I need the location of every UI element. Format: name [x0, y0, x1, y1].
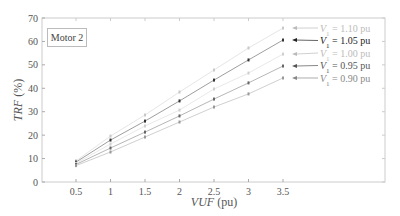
- y-tick-label: 40: [28, 83, 38, 94]
- series-line: [76, 28, 283, 161]
- data-point: [213, 69, 215, 72]
- data-point: [248, 46, 250, 49]
- data-point: [213, 98, 215, 101]
- y-tick-label: 60: [28, 36, 38, 47]
- data-point: [144, 120, 146, 123]
- data-point: [282, 65, 284, 68]
- series-group: [75, 27, 284, 168]
- data-point: [75, 164, 77, 167]
- x-tick-label: 2: [177, 186, 182, 197]
- legend-arrow: [295, 53, 318, 54]
- data-point: [248, 72, 250, 75]
- data-point: [179, 114, 181, 117]
- y-tick-label: 20: [28, 130, 38, 141]
- data-point: [144, 131, 146, 134]
- arrow-head-icon: [292, 64, 297, 68]
- data-point: [110, 147, 112, 150]
- data-point: [179, 121, 181, 124]
- x-axis: 0.511.522.533.5: [70, 18, 290, 197]
- data-point: [179, 99, 181, 102]
- y-tick-label: 30: [28, 106, 38, 117]
- y-tick-label: 0: [33, 177, 38, 188]
- x-tick-label: 3.5: [277, 186, 290, 197]
- data-point: [248, 92, 250, 95]
- data-point: [282, 53, 284, 56]
- data-point: [179, 91, 181, 94]
- data-point: [144, 125, 146, 128]
- x-tick-label: 3: [246, 186, 251, 197]
- data-point: [248, 81, 250, 84]
- y-tick-label: 10: [28, 153, 38, 164]
- data-point: [110, 135, 112, 138]
- data-point: [248, 58, 250, 61]
- arrow-head-icon: [292, 76, 297, 80]
- data-point: [213, 79, 215, 82]
- arrow-head-icon: [292, 26, 297, 30]
- motor-label: Motor 2: [47, 28, 87, 47]
- data-point: [282, 76, 284, 79]
- y-tick-label: 70: [28, 13, 38, 24]
- x-tick-label: 1: [108, 186, 113, 197]
- arrow-head-icon: [292, 52, 297, 56]
- legend: V1 = 1.10 puV1 = 1.05 puV1 = 1.00 puV1 =…: [292, 23, 370, 88]
- data-point: [110, 143, 112, 146]
- data-point: [213, 87, 215, 90]
- data-point: [110, 139, 112, 142]
- x-axis-title: VUF (pu): [191, 195, 237, 209]
- y-axis-title: TRF (%): [11, 79, 25, 121]
- data-point: [179, 109, 181, 112]
- data-point: [282, 39, 284, 42]
- x-tick-label: 1.5: [139, 186, 152, 197]
- y-tick-label: 50: [28, 59, 38, 70]
- x-tick-label: 0.5: [70, 186, 83, 197]
- arrow-head-icon: [292, 38, 297, 42]
- data-point: [144, 136, 146, 139]
- data-point: [110, 151, 112, 154]
- legend-arrow: [295, 66, 318, 67]
- data-point: [282, 27, 284, 30]
- data-point: [144, 113, 146, 116]
- data-point: [213, 106, 215, 109]
